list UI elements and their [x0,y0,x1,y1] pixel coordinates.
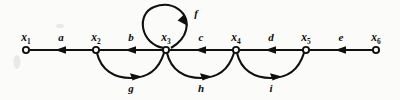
node-marker-x6[interactable] [373,47,379,53]
edge-label-e: e [339,31,344,43]
edge-d-arrowhead [265,46,276,54]
edge-label-i: i [269,82,273,94]
edge-g-arrowhead [130,73,142,80]
edge-a-arrowhead [55,46,66,54]
graph-canvas: x1 x2 x3 x4 x5 x6 a b c d e f g h i [0,0,400,100]
edge-d [240,46,302,54]
node-label-x4: x4 [230,31,241,46]
edge-label-c: c [199,31,204,43]
edge-h-arrowhead [200,73,212,80]
edge-b-arrowhead [125,46,136,54]
edge-i [237,53,304,80]
node-marker-x2[interactable] [93,47,99,53]
edge-g [97,53,164,80]
edge-label-a: a [58,31,64,43]
node-marker-x3[interactable] [163,47,169,53]
edge-e [310,46,372,54]
edge-e-arrowhead [335,46,346,54]
node-marker-x1[interactable] [23,47,29,53]
scan-speck [14,55,21,69]
node-marker-x4[interactable] [233,47,239,53]
edge-i-arrowhead [270,73,282,80]
edge-b [100,46,162,54]
edge-label-h: h [198,82,204,94]
node-label-x6: x6 [370,31,381,46]
edge-label-d: d [268,31,274,43]
edge-c-arrowhead [195,46,206,54]
edge-a [30,46,92,54]
edge-label-b: b [128,31,134,43]
edge-h [167,53,234,80]
edge-label-f: f [194,7,199,19]
edge-c [170,46,232,54]
node-marker-x5[interactable] [303,47,309,53]
node-label-x1: x1 [20,31,31,46]
graph-diagram: x1 x2 x3 x4 x5 x6 a b c d e f g h i [0,0,400,100]
node-label-x2: x2 [90,31,101,46]
node-label-x3: x3 [160,31,171,46]
scan-speck [56,24,64,28]
node-label-x5: x5 [300,31,311,46]
edge-label-g: g [127,82,134,94]
